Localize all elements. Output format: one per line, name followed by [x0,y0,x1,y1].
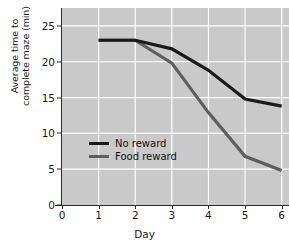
y-tick-label: 20 [33,56,55,68]
line-chart-figure: Average time to complete maze (min) 0510… [0,0,289,250]
y-axis-title-line-1: Average time to [9,0,20,136]
plot-svg [62,8,289,205]
plot-area [62,8,289,205]
legend-label-no-reward: No reward [115,137,166,150]
y-tick-mark [57,169,62,170]
x-tick-mark [208,205,209,209]
series-line [99,40,282,106]
x-tick-mark [172,205,173,209]
y-tick-label: 25 [33,20,55,32]
x-tick-label: 3 [162,209,182,221]
x-tick-mark [62,205,63,209]
y-tick-label: 15 [33,92,55,104]
legend-label-food-reward: Food reward [115,150,177,163]
y-tick-label: 5 [33,163,55,175]
y-tick-mark [57,25,62,26]
legend-swatch-no-reward [89,142,109,145]
y-tick-mark [57,133,62,134]
x-tick-mark [282,205,283,209]
y-tick-mark [57,61,62,62]
x-tick-label: 4 [198,209,218,221]
y-tick-mark [57,97,62,98]
x-tick-mark [99,205,100,209]
y-tick-label: 10 [33,127,55,139]
x-tick-label: 6 [272,209,289,221]
x-tick-label: 0 [52,209,72,221]
legend-item-no-reward: No reward [89,137,177,150]
x-tick-label: 1 [89,209,109,221]
legend-swatch-food-reward [89,155,109,158]
x-axis-title: Day [0,228,289,240]
x-tick-label: 5 [235,209,255,221]
x-tick-mark [135,205,136,209]
y-axis-title-line-2: complete maze (min) [20,0,31,136]
x-tick-mark [245,205,246,209]
x-tick-label: 2 [125,209,145,221]
legend-item-food-reward: Food reward [89,150,177,163]
chart-legend: No reward Food reward [89,137,177,163]
